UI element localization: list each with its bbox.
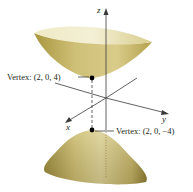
lower-sheet <box>44 130 147 184</box>
z-axis-label: z <box>96 5 101 15</box>
x-axis-label: x <box>65 122 70 132</box>
upper-vertex-point <box>90 76 95 81</box>
upper-vertex-label: Vertex: (2, 0, 4) <box>7 72 61 82</box>
lower-sheet-shade <box>44 130 147 184</box>
x-axis <box>68 98 106 121</box>
z-arrowhead-icon <box>104 8 109 15</box>
hyperboloid-diagram: z y x Vertex: (2, 0, 4) Vertex: (2, 0, −… <box>0 0 193 192</box>
x-axis-negative <box>106 78 137 98</box>
y-axis <box>106 98 166 113</box>
lower-vertex-label: Vertex: (2, 0, −4) <box>116 126 175 136</box>
y-axis-label: y <box>161 114 166 124</box>
upper-sheet <box>34 26 152 78</box>
lower-vertex-point <box>90 128 95 133</box>
y-axis-negative <box>55 83 106 98</box>
